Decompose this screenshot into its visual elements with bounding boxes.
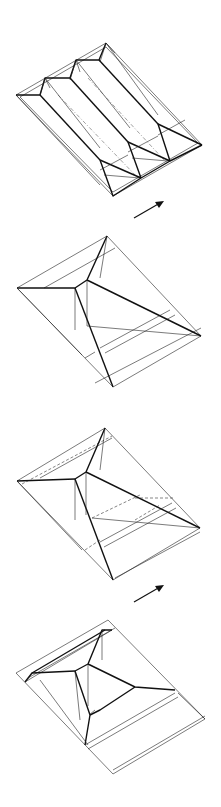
step-4-figure xyxy=(16,620,205,774)
step-1-figure xyxy=(16,43,202,196)
folding-diagram xyxy=(0,0,221,807)
step-2-figure xyxy=(17,236,201,387)
arrow-2-icon xyxy=(134,585,164,602)
arrow-1-icon xyxy=(134,201,164,218)
step-3-figure xyxy=(17,428,200,580)
